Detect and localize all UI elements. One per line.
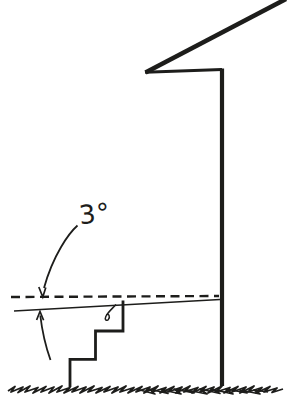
angle-arc-lower <box>40 316 50 361</box>
house-slope-diagram: 3° <box>0 0 288 412</box>
illustration-canvas: 3° <box>0 0 288 412</box>
angle-arc-upper <box>44 226 78 289</box>
slope-line <box>14 300 220 312</box>
roof-line <box>146 0 287 73</box>
arrowhead-down-icon <box>39 287 46 297</box>
slope-tick-loop <box>105 305 116 321</box>
angle-label: 3° <box>78 197 113 230</box>
soffit-line <box>145 70 222 73</box>
stairs-outline <box>70 301 123 388</box>
ink-layer: 3° <box>8 0 286 394</box>
